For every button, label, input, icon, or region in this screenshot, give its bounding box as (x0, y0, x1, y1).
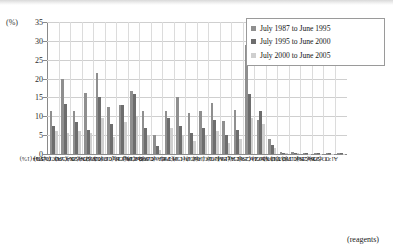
y-tick-label: 30 (35, 36, 43, 45)
bar (159, 150, 162, 154)
bar (274, 148, 277, 154)
bar-group (94, 22, 106, 154)
bar (343, 154, 346, 155)
x-tick-cell: HAuCl4 (0.2%) (163, 156, 175, 226)
legend-item: July 1995 to June 2000 (251, 35, 380, 48)
x-tick-cell: FeCl3 (2%) (186, 156, 198, 226)
legend-swatch-icon (251, 39, 256, 44)
legend-item: July 2000 to June 2005 (251, 49, 380, 62)
bar-group (209, 22, 221, 154)
bar-group (221, 22, 233, 154)
bar-group (175, 22, 187, 154)
bar-group (140, 22, 152, 154)
x-tick-cell: SbCl3 (1%) (244, 156, 256, 226)
x-tick-cell: CuSO4 (1%) (48, 156, 60, 226)
x-tick-cell: AgBr (2%) (232, 156, 244, 226)
y-axis-tick-labels: 05101520253035 (16, 22, 43, 154)
bar (136, 116, 139, 154)
x-tick-cell: H2PtCl6 (0.5%) (175, 156, 187, 226)
bar (90, 133, 93, 154)
y-tick-mark (43, 41, 47, 42)
x-tick-cell: MnCl2 (2%) (267, 156, 279, 226)
bar (320, 154, 323, 155)
bar (285, 153, 288, 154)
x-tick-cell: TiO2 (30%) (278, 156, 290, 226)
bar-group (198, 22, 210, 154)
y-tick-mark (43, 79, 47, 80)
legend-label: July 2000 to June 2005 (260, 51, 330, 60)
bar-group (232, 22, 244, 154)
bar-group (60, 22, 72, 154)
x-axis-tick-labels: CuSO4 (1%)PdCl2 (1%)K2Cr2O7 (0.5%)NiSO4 … (48, 156, 347, 226)
x-tick-cell: TiO2 (10%) (290, 156, 302, 226)
bar (147, 135, 150, 154)
bar (251, 118, 254, 154)
bar (170, 128, 173, 154)
bar (55, 131, 58, 154)
y-tick-mark (43, 116, 47, 117)
bar-group (186, 22, 198, 154)
x-tick-cell: BaCl2 (0.5%) (301, 156, 313, 226)
bar (239, 139, 242, 154)
bar-group (152, 22, 164, 154)
x-tick-cell: CrSO4 (2%) (324, 156, 336, 226)
x-tick-cell: CdSO4 (1%) (152, 156, 164, 226)
y-tick-mark (43, 154, 47, 155)
bar-group (106, 22, 118, 154)
x-tick-cell: Al2O3 (2%) (336, 156, 348, 226)
x-tick-cell: SnCl4 (1%) (140, 156, 152, 226)
bar (113, 137, 116, 154)
bar (331, 154, 334, 155)
y-tick-label: 20 (35, 74, 43, 83)
bar (262, 124, 265, 154)
x-tick-cell: NiSO4 (5%) (83, 156, 95, 226)
legend-item: July 1987 to June 1995 (251, 22, 380, 35)
scan-edge-artifact (0, 0, 393, 5)
bar (228, 143, 231, 154)
y-tick-label: 25 (35, 55, 43, 64)
x-tick-cell: HgCl2 (0.05%) (129, 156, 141, 226)
x-tick-cell: BaCl2 (0.1%) (313, 156, 325, 226)
y-tick-mark (43, 22, 47, 23)
x-tick-cell: CoCl2 (2%) (106, 156, 118, 226)
legend: July 1987 to June 1995 July 1995 to June… (246, 18, 385, 66)
x-axis-note: (reagents) (347, 235, 379, 244)
x-tick-label: Al2O3 (2%) (309, 156, 338, 162)
x-tick-cell: HgCl2 (0.1%) (117, 156, 129, 226)
bar (124, 122, 127, 154)
bar (193, 141, 196, 154)
y-tick-label: 35 (35, 18, 43, 27)
x-axis-line (47, 154, 347, 155)
y-tick-mark (43, 135, 47, 136)
bar-group (117, 22, 129, 154)
bar-group (163, 22, 175, 154)
bar-group (48, 22, 60, 154)
bar (205, 135, 208, 154)
bar (216, 131, 219, 154)
bar-chart: (%) 05101520253035 CuSO4 (1%)PdCl2 (1%)K… (0, 0, 393, 252)
x-tick-cell: NiSO4 (2%) (94, 156, 106, 226)
y-tick-label: 15 (35, 93, 43, 102)
bar-group (129, 22, 141, 154)
x-tick-cell: MoCl5 (1%) (221, 156, 233, 226)
x-tick-cell: InCl3 (1%) (198, 156, 210, 226)
bar (297, 153, 300, 154)
x-tick-cell: PdCl2 (1%) (60, 156, 72, 226)
bar (308, 154, 311, 155)
y-tick-label: 10 (35, 112, 43, 121)
x-tick-cell: K2Cr2O7 (0.5%) (71, 156, 83, 226)
x-tick-cell: ZnCl2 (2%) (255, 156, 267, 226)
bar (67, 133, 70, 154)
legend-swatch-icon (251, 53, 256, 58)
y-tick-mark (43, 60, 47, 61)
bar-group (83, 22, 95, 154)
legend-swatch-icon (251, 26, 256, 31)
bar (78, 131, 81, 154)
x-tick-cell: IrCl4 (1%) (209, 156, 221, 226)
bar (182, 135, 185, 154)
bar-group (71, 22, 83, 154)
y-tick-mark (43, 97, 47, 98)
legend-label: July 1987 to June 1995 (260, 24, 330, 33)
legend-label: July 1995 to June 2000 (260, 37, 330, 46)
bar (101, 118, 104, 154)
